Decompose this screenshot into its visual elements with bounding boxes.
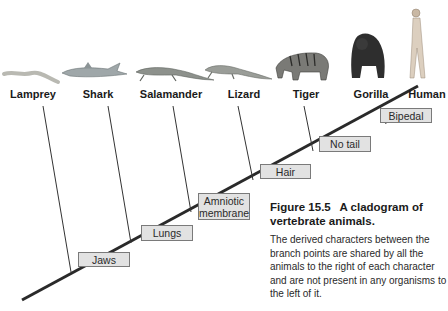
tiger-icon — [276, 53, 329, 80]
taxon-label-tiger: Tiger — [293, 88, 320, 100]
taxon-label-human: Human — [408, 88, 445, 100]
taxon-label-lamprey: Lamprey — [10, 88, 56, 100]
taxon-label-salamander: Salamander — [140, 88, 202, 100]
gorilla-icon — [351, 34, 385, 79]
branch-salamander — [173, 106, 191, 212]
lamprey-icon — [4, 73, 58, 82]
caption-title: Figure 15.5 A cladogram of vertebrate an… — [270, 200, 448, 228]
character-amniotic-membrane: Amniotic membrane — [198, 193, 250, 220]
figure-number: Figure 15.5 — [270, 201, 331, 213]
taxon-label-lizard: Lizard — [228, 88, 260, 100]
salamander-icon — [136, 68, 214, 81]
branch-lamprey — [43, 106, 71, 272]
character-hair: Hair — [260, 164, 311, 179]
character-jaws: Jaws — [78, 252, 130, 267]
character-lungs: Lungs — [141, 225, 193, 241]
cladogram: Lamprey Shark Salamander Lizard Tiger Go… — [0, 0, 448, 311]
branch-lizard — [238, 106, 253, 180]
character-no-tail: No tail — [319, 136, 371, 152]
taxon-label-shark: Shark — [83, 88, 114, 100]
figure-caption: Figure 15.5 A cladogram of vertebrate an… — [270, 200, 448, 301]
shark-icon — [62, 62, 127, 77]
taxon-label-gorilla: Gorilla — [354, 88, 389, 100]
lizard-icon — [205, 66, 272, 79]
human-icon — [410, 9, 425, 78]
branch-shark — [108, 106, 131, 243]
character-bipedal: Bipedal — [380, 108, 432, 123]
caption-description: The derived characters between the branc… — [270, 233, 448, 301]
